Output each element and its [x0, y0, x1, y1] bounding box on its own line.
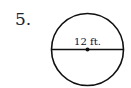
diameter-label: 12 ft. [74, 36, 101, 47]
circle-diagram: 12 ft. [0, 0, 131, 88]
center-point [86, 48, 90, 52]
